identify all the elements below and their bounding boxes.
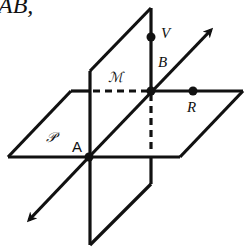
point-b <box>147 87 156 96</box>
point-a <box>85 153 94 162</box>
label-plane-p: 𝒫 <box>46 131 56 145</box>
label-point-v: V <box>161 26 170 41</box>
label-plane-m: ℳ <box>108 71 123 85</box>
label-point-r: R <box>187 100 196 115</box>
point-v <box>147 33 156 42</box>
label-point-a: A <box>72 139 82 154</box>
line-ab <box>29 30 211 220</box>
two-planes-diagram <box>0 0 252 248</box>
plane-p <box>8 91 243 157</box>
point-r <box>189 87 198 96</box>
label-point-b: B <box>158 55 167 70</box>
